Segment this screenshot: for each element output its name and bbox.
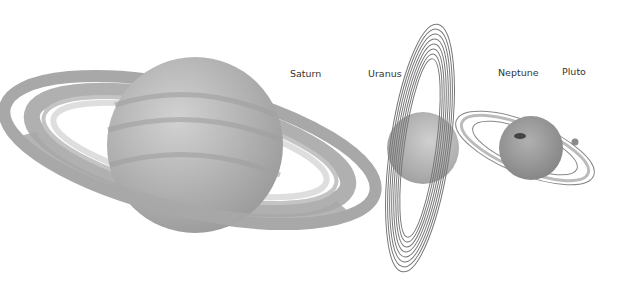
uranus-label: Uranus bbox=[368, 68, 402, 79]
neptune-planet bbox=[499, 116, 563, 180]
neptune-label: Neptune bbox=[498, 67, 539, 78]
saturn-label: Saturn bbox=[290, 68, 321, 79]
pluto-planet bbox=[572, 139, 579, 146]
pluto-label: Pluto bbox=[562, 66, 586, 77]
planets-illustration bbox=[0, 0, 626, 288]
planets-diagram: Saturn Uranus Neptune Pluto bbox=[0, 0, 626, 288]
